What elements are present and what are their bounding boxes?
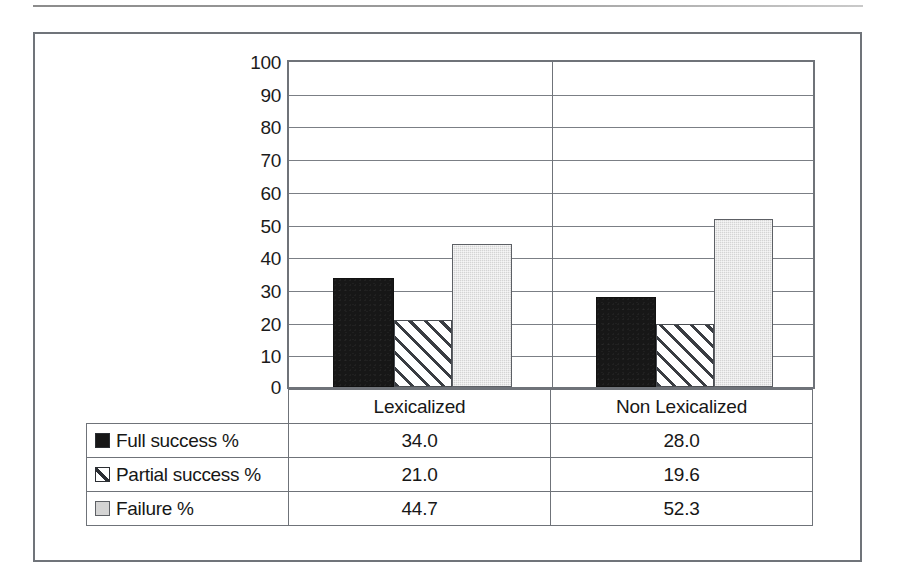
legend-label-full-success: Full success % (116, 430, 239, 452)
table-row: Partial success % 21.0 19.6 (87, 458, 813, 492)
legend-entry-full-success[interactable]: Full success % (87, 424, 289, 458)
legend-label-failure: Failure % (116, 498, 194, 520)
y-axis-tick-labels: 100 90 80 70 60 50 40 30 20 10 0 (229, 60, 281, 389)
legend-swatch-partial-success-icon (95, 467, 110, 482)
figure-frame: 100 90 80 70 60 50 40 30 20 10 0 (33, 32, 862, 562)
table-header-row: Lexicalized Non Lexicalized (87, 390, 813, 424)
y-tick-20: 20 (260, 314, 281, 333)
plot-area (287, 60, 815, 389)
value-full-success-lexicalized: 34.0 (289, 424, 551, 458)
legend-entry-partial-success[interactable]: Partial success % (87, 458, 289, 492)
y-tick-30: 30 (260, 281, 281, 300)
y-tick-50: 50 (260, 216, 281, 235)
plot-wrapper: 100 90 80 70 60 50 40 30 20 10 0 (287, 60, 815, 389)
value-failure-lexicalized: 44.7 (289, 492, 551, 526)
category-header-lexicalized: Lexicalized (289, 390, 551, 424)
table-row: Full success % 34.0 28.0 (87, 424, 813, 458)
page-top-rule (33, 5, 863, 7)
legend-entry-failure[interactable]: Failure % (87, 492, 289, 526)
table-corner-cell (87, 390, 289, 424)
value-partial-success-lexicalized: 21.0 (289, 458, 551, 492)
value-partial-success-non-lexicalized: 19.6 (551, 458, 813, 492)
y-tick-70: 70 (260, 151, 281, 170)
y-tick-40: 40 (260, 249, 281, 268)
legend-swatch-full-success-icon (95, 433, 110, 448)
chart-data-table: Lexicalized Non Lexicalized Full success… (86, 389, 813, 526)
table-row: Failure % 44.7 52.3 (87, 492, 813, 526)
value-failure-non-lexicalized: 52.3 (551, 492, 813, 526)
y-tick-10: 10 (260, 347, 281, 366)
bar-lexicalized-partial-success[interactable] (394, 320, 452, 387)
bar-non-lexicalized-failure[interactable] (714, 219, 773, 387)
bar-non-lexicalized-full-success[interactable] (596, 297, 656, 387)
legend-label-partial-success: Partial success % (116, 464, 261, 486)
y-tick-80: 80 (260, 118, 281, 137)
y-tick-90: 90 (260, 85, 281, 104)
bars-layer (289, 62, 813, 387)
bar-lexicalized-failure[interactable] (452, 244, 512, 387)
bar-non-lexicalized-partial-success[interactable] (656, 324, 714, 387)
legend-swatch-failure-icon (95, 501, 110, 516)
y-tick-60: 60 (260, 183, 281, 202)
value-full-success-non-lexicalized: 28.0 (551, 424, 813, 458)
bar-lexicalized-full-success[interactable] (333, 278, 394, 387)
y-tick-100: 100 (250, 53, 281, 72)
category-header-non-lexicalized: Non Lexicalized (551, 390, 813, 424)
